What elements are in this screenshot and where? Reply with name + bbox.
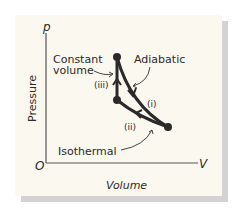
constant-volume-label-line2: volume xyxy=(53,64,94,77)
state-point-right xyxy=(164,123,172,131)
origin-label: O xyxy=(35,159,44,173)
pv-diagram: p V O Volume Pressure Constant volume Ad… xyxy=(0,0,243,212)
isothermal-label: Isothermal xyxy=(58,145,117,158)
y-axis-label: Pressure xyxy=(26,75,39,122)
state-point-top xyxy=(113,53,121,61)
v-axis-symbol: V xyxy=(199,157,208,171)
p-axis-symbol: p xyxy=(42,20,51,34)
state-point-left xyxy=(113,96,121,104)
adiabatic-label: Adiabatic xyxy=(134,53,185,66)
process-label-i: (i) xyxy=(147,99,157,109)
process-label-iii: (iii) xyxy=(94,80,109,90)
process-label-ii: (ii) xyxy=(124,122,136,132)
x-axis-label: Volume xyxy=(106,179,147,192)
isothermal-pointer xyxy=(121,130,152,150)
